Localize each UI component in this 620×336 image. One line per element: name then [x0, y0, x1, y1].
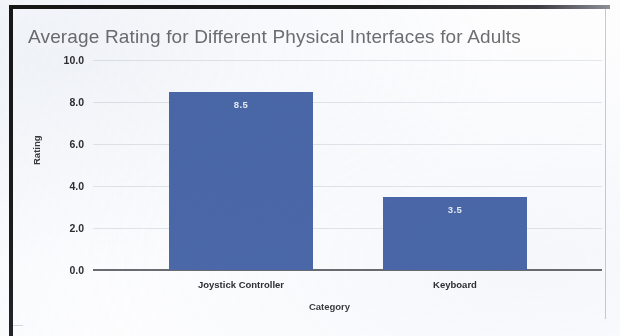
page-frame-left-edge	[9, 5, 13, 336]
y-tick-label-4: 4.0	[69, 180, 84, 192]
y-tick-label-0: 0.0	[69, 264, 84, 276]
y-axis-label: Rating	[31, 135, 42, 165]
page-frame-bottom-edge	[13, 325, 23, 326]
bar-value-label: 3.5	[383, 204, 527, 215]
x-tick-label-keyboard: Keyboard	[433, 279, 477, 290]
y-tick-label-10: 10.0	[64, 54, 84, 66]
page-frame-right-edge	[605, 7, 606, 319]
y-tick-label-2: 2.0	[69, 222, 84, 234]
bar-joystick-controller[interactable]: 8.5 Joystick Controller	[169, 92, 313, 271]
x-tick-label-joystick-controller: Joystick Controller	[198, 279, 284, 290]
bar-keyboard[interactable]: 3.5 Keyboard	[383, 197, 527, 271]
y-tick-label-8: 8.0	[69, 96, 84, 108]
scanned-chart-page: Average Rating for Different Physical In…	[0, 0, 620, 336]
x-axis-label: Category	[269, 301, 350, 312]
chart-title: Average Rating for Different Physical In…	[28, 26, 521, 48]
plot-area: 10.0 8.0 6.0 4.0 2.0 0.0 8.5 Joystick Co…	[93, 60, 602, 270]
bar-chart: Average Rating for Different Physical In…	[13, 9, 606, 331]
page-frame-top-edge	[9, 5, 610, 9]
x-axis-label-wrapper: Category	[13, 301, 606, 312]
bar-value-label: 8.5	[169, 99, 313, 110]
y-tick-label-6: 6.0	[69, 138, 84, 150]
gridline-10: 10.0	[93, 60, 602, 61]
